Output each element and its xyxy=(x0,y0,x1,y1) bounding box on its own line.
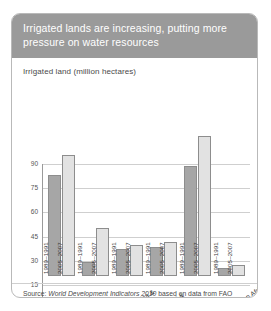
y-axis-tick-label: 60 xyxy=(12,208,38,215)
bar-period-label: 1989–1991 xyxy=(76,242,83,274)
chart-subtitle: Irrigated land (million hectares) xyxy=(12,58,257,76)
bar-group: 1989–19912005–2007 xyxy=(150,130,178,276)
source-note: Source: World Development Indicators 201… xyxy=(12,283,258,297)
source-suffix: based on data from FAO xyxy=(156,290,232,297)
y-axis-line xyxy=(42,164,43,298)
bar-period-label: 1989–1991 xyxy=(42,242,49,274)
bar-group: 1989–19912005–2007 xyxy=(184,130,212,276)
bar xyxy=(164,242,177,276)
bar-period-label: 2005–2007 xyxy=(124,242,131,274)
bar-period-label: 2005–2007 xyxy=(158,242,165,274)
y-axis-tick-label: 45 xyxy=(12,233,38,240)
bar-group: 1989–19912005–2007 xyxy=(82,130,110,276)
bar xyxy=(130,245,143,276)
y-axis-tick-label: 90 xyxy=(12,160,38,167)
bar-group: 1989–19912005–2007 xyxy=(48,130,76,276)
bar-period-label: 2005–2007 xyxy=(192,242,199,274)
bar-period-label: 1989–1991 xyxy=(178,242,185,274)
bar xyxy=(198,136,211,276)
plot-area: 0153045607590 1989–19912005–20071989–199… xyxy=(12,76,258,276)
y-axis-tick-label: 75 xyxy=(12,184,38,191)
bar-period-label: 2005–2007 xyxy=(56,242,63,274)
card-header: Irrigated lands are increasing, putting … xyxy=(12,14,257,58)
bar-period-label: 1989–1991 xyxy=(212,242,219,274)
bar-period-label: 1989–1991 xyxy=(110,242,117,274)
bar-period-label: 2005–2007 xyxy=(226,242,233,274)
source-prefix: Source: xyxy=(23,290,48,297)
bar-period-label: 2005–2007 xyxy=(90,242,97,274)
bar xyxy=(62,155,75,276)
bar-period-label: 1989–1991 xyxy=(144,242,151,274)
source-publication: World Development Indicators 2010 xyxy=(48,290,156,297)
chart-card: Irrigated lands are increasing, putting … xyxy=(11,13,258,298)
bar-group: 1989–19912005–2007 xyxy=(218,130,246,276)
bar xyxy=(232,265,245,276)
y-axis-tick-label: 30 xyxy=(12,257,38,264)
bar-group: 1989–19912005–2007 xyxy=(116,130,144,276)
bar xyxy=(96,228,109,276)
